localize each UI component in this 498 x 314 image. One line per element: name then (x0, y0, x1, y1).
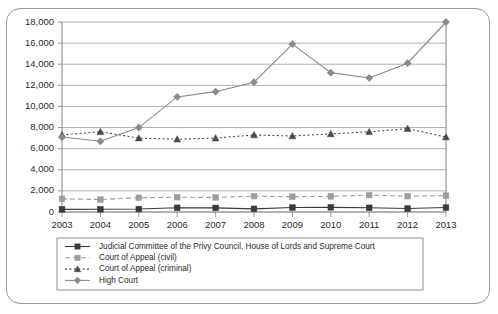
series-data-point (251, 193, 257, 199)
series-data-point (443, 205, 449, 211)
series-data-point (366, 192, 372, 198)
data-series (58, 18, 449, 144)
x-tick-label: 2007 (205, 219, 226, 230)
screenshot-root: 02,0004,0006,0008,00010,00012,00014,0001… (0, 0, 498, 314)
series-data-point (366, 205, 372, 211)
legend-entry-label: Judicial Committee of the Privy Council,… (99, 242, 375, 251)
legend-entry-label: Court of Appeal (criminal) (99, 264, 192, 273)
series-data-point (136, 195, 142, 201)
data-series-group (58, 18, 449, 212)
x-tick-label: 2008 (243, 219, 264, 230)
series-data-point (366, 74, 373, 81)
series-data-point (327, 130, 334, 136)
series-data-point (136, 206, 142, 212)
series-data-point (174, 136, 181, 142)
legend-marker-icon (74, 277, 81, 284)
data-series (59, 192, 449, 202)
series-data-point (174, 194, 180, 200)
y-tick-label: 10,000 (25, 100, 54, 111)
series-data-point (328, 194, 334, 200)
series-data-point (213, 205, 219, 211)
y-tick-label: 12,000 (25, 79, 54, 90)
series-data-point (290, 205, 296, 211)
series-data-point (251, 206, 257, 212)
series-data-point (290, 194, 296, 200)
data-series (59, 205, 449, 213)
series-data-point (405, 206, 411, 212)
y-tick-label: 16,000 (25, 37, 54, 48)
series-data-point (97, 138, 104, 145)
series-data-point (212, 135, 219, 141)
x-tick-label: 2004 (90, 219, 111, 230)
y-tick-label: 4,000 (30, 163, 54, 174)
x-tick-label: 2003 (51, 219, 72, 230)
x-tick-label: 2012 (397, 219, 418, 230)
x-tick-label: 2009 (282, 219, 303, 230)
chart-svg: 02,0004,0006,0008,00010,00012,00014,0001… (0, 0, 498, 314)
series-data-point (58, 133, 65, 140)
series-data-point (328, 205, 334, 211)
x-tick-label: 2013 (435, 219, 456, 230)
y-tick-label: 8,000 (30, 121, 54, 132)
y-tick-label: 14,000 (25, 58, 54, 69)
series-data-point (213, 195, 219, 201)
y-tick-label: 6,000 (30, 142, 54, 153)
series-data-point (443, 193, 449, 199)
series-data-point (212, 88, 219, 95)
series-data-point (174, 205, 180, 211)
series-data-point (366, 128, 373, 134)
series-data-point (59, 207, 65, 213)
y-tick-label: 18,000 (25, 16, 54, 27)
chart-legend: Judicial Committee of the Privy Council,… (57, 238, 423, 290)
gridlines-group (62, 22, 446, 212)
x-axis-group: 2003200420052006200720082009201020112012… (51, 212, 456, 230)
legend-marker-icon (75, 255, 80, 260)
y-tick-label: 2,000 (30, 184, 54, 195)
y-tick-label: 0 (49, 206, 54, 217)
y-axis-group: 02,0004,0006,0008,00010,00012,00014,0001… (25, 16, 446, 217)
line-chart-figure: 02,0004,0006,0008,00010,00012,00014,0001… (0, 0, 498, 314)
series-data-point (98, 197, 104, 203)
x-tick-label: 2006 (167, 219, 188, 230)
x-tick-label: 2010 (320, 219, 341, 230)
x-tick-label: 2005 (128, 219, 149, 230)
legend-entry-label: Court of Appeal (civil) (99, 253, 177, 262)
series-data-point (98, 206, 104, 212)
series-data-point (405, 193, 411, 199)
series-data-point (59, 196, 65, 202)
legend-marker-icon (75, 244, 80, 249)
x-tick-label: 2011 (359, 219, 379, 230)
legend-entry-label: High Court (99, 276, 139, 285)
